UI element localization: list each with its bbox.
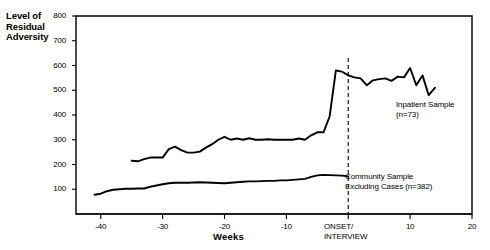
x-axis-ticks	[101, 214, 472, 219]
y-tick-label: 200	[40, 160, 66, 169]
x-axis-title: Weeks	[213, 231, 244, 242]
y-tick-label: 600	[40, 61, 66, 70]
onset-interview-label: ONSET/ INTERVIEW	[324, 222, 367, 241]
series-line	[132, 68, 435, 161]
x-tick-label: -10	[273, 222, 299, 231]
community-sample-label: Community Sample Excluding Cases (n=382)	[345, 172, 432, 191]
inpatient-sample-label: Inpatient Sample (n=73)	[396, 100, 454, 119]
y-tick-label: 300	[40, 135, 66, 144]
x-tick-label: -40	[88, 222, 114, 231]
x-tick-label: 10	[397, 222, 423, 231]
series-line	[95, 175, 349, 195]
y-tick-label: 700	[40, 36, 66, 45]
x-tick-label: 20	[459, 222, 485, 231]
residual-adversity-line-chart	[0, 0, 490, 250]
y-tick-label: 500	[40, 85, 66, 94]
y-tick-label: 800	[40, 11, 66, 20]
x-tick-label: -20	[212, 222, 238, 231]
y-tick-label: 100	[40, 184, 66, 193]
y-tick-label: 400	[40, 110, 66, 119]
x-tick-label: -30	[150, 222, 176, 231]
chart-figure: Level of Residual Adversity Weeks 100200…	[0, 0, 490, 250]
